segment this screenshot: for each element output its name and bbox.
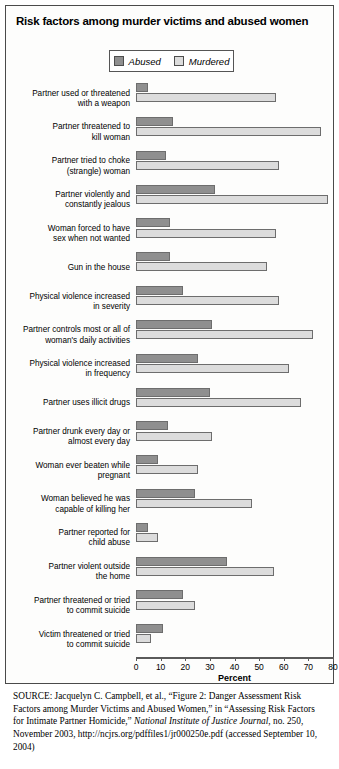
bar-group xyxy=(135,82,335,116)
source-journal: National Institute of Justice Journal xyxy=(134,716,268,726)
category-label-line: Physical violence increased xyxy=(6,292,130,302)
bar-abused xyxy=(136,624,163,633)
bar-murdered xyxy=(136,127,321,136)
x-axis-tick xyxy=(185,657,186,661)
bar-group xyxy=(135,454,335,488)
bar-abused xyxy=(136,185,215,194)
chart-row: Gun in the house xyxy=(6,251,335,285)
bar-group xyxy=(135,251,335,285)
category-label: Gun in the house xyxy=(6,263,135,273)
chart-row: Partner used or threatenedwith a weapon xyxy=(6,82,335,116)
category-label-line: child abuse xyxy=(6,538,130,548)
category-label: Partner violently andconstantly jealous xyxy=(6,190,135,211)
category-label-line: Partner threatened to xyxy=(6,122,130,132)
x-axis-tick xyxy=(259,657,260,661)
chart-row: Partner violent outsidethe home xyxy=(6,555,335,589)
category-label: Woman forced to havesex when not wanted xyxy=(6,224,135,245)
chart-legend: Abused Murdered xyxy=(109,50,234,72)
bar-murdered xyxy=(136,195,328,204)
category-label-line: in frequency xyxy=(6,369,130,379)
category-label-line: Partner uses illicit drugs xyxy=(6,398,130,408)
x-axis-tick xyxy=(333,657,334,661)
x-axis-tick xyxy=(308,657,309,661)
category-label: Victim threatened or triedto commit suic… xyxy=(6,630,135,651)
bar-group xyxy=(135,183,335,217)
category-label: Partner uses illicit drugs xyxy=(6,398,135,408)
category-label-line: Partner violent outside xyxy=(6,562,130,572)
category-label-line: (strangle) woman xyxy=(6,167,130,177)
bar-murdered xyxy=(136,634,151,643)
bar-abused xyxy=(136,354,198,363)
x-axis-tick-label: 60 xyxy=(279,662,288,672)
legend-swatch-murdered-icon xyxy=(174,56,184,66)
bar-group xyxy=(135,589,335,623)
bar-abused xyxy=(136,83,148,92)
category-label: Partner violent outsidethe home xyxy=(6,562,135,583)
bar-abused xyxy=(136,455,158,464)
chart-row: Partner drunk every day oralmost every d… xyxy=(6,420,335,454)
category-label-line: with a weapon xyxy=(6,99,130,109)
bar-murdered xyxy=(136,432,212,441)
chart-row: Partner threatened or triedto commit sui… xyxy=(6,589,335,623)
x-axis-tick xyxy=(210,657,211,661)
bar-group xyxy=(135,488,335,522)
chart-row: Partner violently andconstantly jealous xyxy=(6,183,335,217)
category-label-line: Partner threatened or tried xyxy=(6,596,130,606)
category-label: Woman ever beaten whilepregnant xyxy=(6,461,135,482)
category-label-line: Woman ever beaten while xyxy=(6,461,130,471)
bar-group xyxy=(135,623,335,657)
category-label-line: woman's daily activities xyxy=(6,336,130,346)
bar-abused xyxy=(136,388,210,397)
bar-abused xyxy=(136,286,183,295)
category-label-line: to commit suicide xyxy=(6,640,130,650)
category-label-line: Victim threatened or tried xyxy=(6,630,130,640)
x-axis-tick xyxy=(284,657,285,661)
x-axis-tick-label: 70 xyxy=(304,662,313,672)
bar-group xyxy=(135,555,335,589)
category-label-line: Partner controls most or all of xyxy=(6,325,130,335)
x-axis-tick-label: 40 xyxy=(230,662,239,672)
bar-murdered xyxy=(136,161,279,170)
category-label: Partner controls most or all ofwoman's d… xyxy=(6,325,135,346)
chart-row: Partner reported forchild abuse xyxy=(6,522,335,556)
legend-swatch-abused-icon xyxy=(114,56,124,66)
bar-group xyxy=(135,522,335,556)
bar-abused xyxy=(136,557,227,566)
x-axis-tick-label: 80 xyxy=(328,662,337,672)
category-label-line: almost every day xyxy=(6,437,130,447)
category-label-line: kill woman xyxy=(6,133,130,143)
category-label-line: Gun in the house xyxy=(6,263,130,273)
figure-container: Risk factors among murder victims and ab… xyxy=(5,5,334,684)
bar-group xyxy=(135,217,335,251)
category-label: Partner threatened tokill woman xyxy=(6,122,135,143)
chart-row: Partner threatened tokill woman xyxy=(6,116,335,150)
x-axis-tick xyxy=(235,657,236,661)
bar-abused xyxy=(136,151,166,160)
bar-abused xyxy=(136,252,170,261)
bar-murdered xyxy=(136,364,289,373)
chart-row: Woman believed he wascapable of killing … xyxy=(6,488,335,522)
source-note: SOURCE: Jacquelyn C. Campbell, et al., “… xyxy=(5,690,334,753)
category-label: Physical violence increasedin frequency xyxy=(6,359,135,380)
category-label-line: Partner drunk every day or xyxy=(6,427,130,437)
bar-murdered xyxy=(136,93,276,102)
bar-murdered xyxy=(136,601,195,610)
bar-abused xyxy=(136,421,168,430)
x-axis: 01020304050607080 xyxy=(136,657,333,659)
bar-abused xyxy=(136,117,173,126)
category-label-line: capable of killing her xyxy=(6,505,130,515)
category-label-line: constantly jealous xyxy=(6,200,130,210)
category-label-line: to commit suicide xyxy=(6,606,130,616)
legend-label-abused: Abused xyxy=(129,56,161,67)
bar-murdered xyxy=(136,398,301,407)
bar-abused xyxy=(136,523,148,532)
bar-abused xyxy=(136,218,170,227)
bar-group xyxy=(135,353,335,387)
legend-entry-abused: Abused xyxy=(114,56,161,67)
category-label-line: Woman forced to have xyxy=(6,224,130,234)
bar-murdered xyxy=(136,567,274,576)
bar-abused xyxy=(136,489,195,498)
category-label-line: the home xyxy=(6,572,130,582)
x-axis-title: Percent xyxy=(136,673,333,683)
bar-group xyxy=(135,420,335,454)
